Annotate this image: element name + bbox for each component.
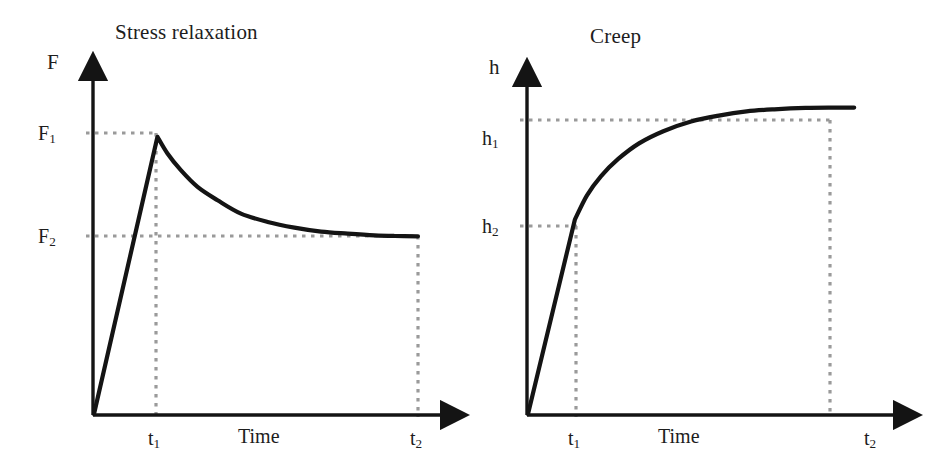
creep-xtick-t2-sub: 2 bbox=[870, 436, 877, 451]
creep-ytick-h1-base: h bbox=[482, 127, 492, 149]
stress-xtick-t1-sub: 1 bbox=[154, 436, 161, 451]
stress-ytick-F2: F2 bbox=[38, 226, 56, 249]
creep-ytick-h2-sub: 2 bbox=[492, 224, 499, 239]
creep-ytick-h2-base: h bbox=[482, 215, 492, 237]
creep-ytick-h1-sub: 1 bbox=[492, 136, 499, 151]
stress-ytick-F2-base: F bbox=[38, 225, 49, 247]
stress-relaxation-guides bbox=[86, 133, 419, 417]
stress-y-axis-label: F bbox=[47, 52, 59, 73]
stress-relaxation-panel bbox=[86, 78, 443, 417]
creep-y-axis-label: h bbox=[489, 57, 500, 78]
creep-xtick-t1-sub: 1 bbox=[574, 436, 581, 451]
stress-ytick-F1-base: F bbox=[38, 122, 49, 144]
creep-title: Creep bbox=[590, 26, 641, 47]
plot-canvas bbox=[0, 0, 942, 468]
creep-ytick-h1: h1 bbox=[482, 128, 499, 151]
creep-guides bbox=[520, 120, 831, 417]
creep-panel bbox=[520, 84, 896, 417]
stress-x-axis-label: Time bbox=[238, 426, 280, 446]
creep-xtick-t1: t1 bbox=[568, 428, 580, 451]
creep-xtick-t2: t2 bbox=[864, 428, 876, 451]
stress-relaxation-title: Stress relaxation bbox=[115, 22, 258, 43]
stress-xtick-t2: t2 bbox=[410, 428, 422, 451]
stress-ytick-F2-sub: 2 bbox=[49, 234, 56, 249]
stress-relaxation-curve bbox=[94, 137, 418, 414]
creep-x-axis-label: Time bbox=[658, 426, 700, 446]
stress-xtick-t2-sub: 2 bbox=[416, 436, 423, 451]
figure-root: Stress relaxation F F1 F2 t1 Time t2 Cre… bbox=[0, 0, 942, 468]
stress-ytick-F1: F1 bbox=[38, 123, 56, 146]
creep-ytick-h2: h2 bbox=[482, 216, 499, 239]
creep-curve bbox=[528, 108, 854, 414]
stress-xtick-t1: t1 bbox=[148, 428, 160, 451]
stress-ytick-F1-sub: 1 bbox=[49, 131, 56, 146]
